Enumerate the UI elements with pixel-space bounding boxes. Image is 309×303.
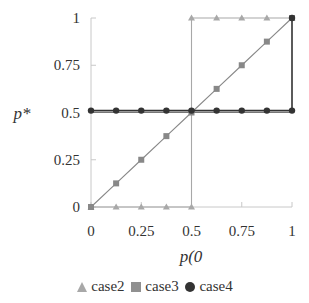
series-layer [88,15,296,211]
data-point [264,39,270,45]
x-tick-label: 0.75 [229,223,255,239]
data-point [289,107,295,113]
legend-label: case3 [145,278,178,295]
legend: case2 case3 case4 [0,278,309,297]
legend-item-case4[interactable]: case4 [184,278,232,295]
x-tick-label: 0.5 [182,223,201,239]
legend-item-case3[interactable]: case3 [130,278,178,295]
data-point [138,107,144,113]
x-tick-label: 0.25 [128,223,154,239]
data-point [239,107,245,113]
data-point [264,107,270,113]
data-point [163,133,169,139]
x-tick-label: 1 [288,223,296,239]
data-point [239,62,245,68]
y-tick-label: 0.75 [54,57,80,73]
x-axis-title: p(0 [179,247,203,266]
data-point [138,157,144,163]
data-point [163,107,169,113]
y-tick-label: 0.5 [61,105,80,121]
y-tick-label: 0 [73,199,81,215]
x-tick-label: 0 [87,223,95,239]
square-icon [130,281,142,293]
data-point [88,204,94,210]
y-axis-title: p* [13,104,32,123]
data-point [113,107,119,113]
data-point [214,86,220,92]
data-point [113,180,119,186]
data-point [188,107,194,113]
data-point [88,107,94,113]
y-tick-label: 1 [73,10,81,26]
y-tick-label: 0.25 [54,152,80,168]
legend-label: case2 [91,278,124,295]
chart: 00.250.50.75100.250.50.751 p(0 p* [0,0,309,280]
triangle-icon [76,281,88,293]
legend-label: case4 [199,278,232,295]
data-point [213,107,219,113]
data-point [289,15,295,21]
circle-icon [184,281,196,293]
legend-item-case2[interactable]: case2 [76,278,124,295]
